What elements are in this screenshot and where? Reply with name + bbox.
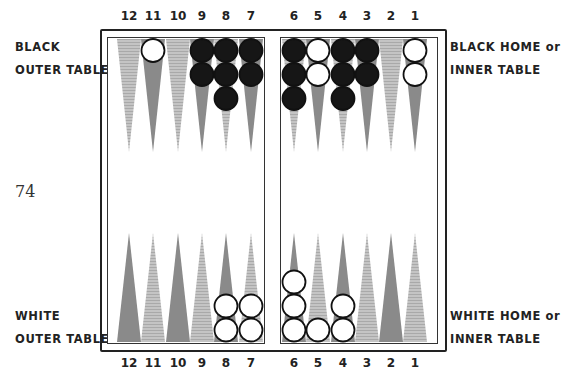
white-checker — [283, 271, 306, 294]
black-checker — [332, 63, 355, 86]
black-checker — [283, 63, 306, 86]
white-checker — [215, 319, 238, 342]
white-checker — [332, 319, 355, 342]
point-bottom-2 — [379, 233, 403, 342]
black-checker — [215, 87, 238, 110]
black-checker — [240, 39, 263, 62]
black-checker — [332, 39, 355, 62]
point-top-2 — [379, 39, 403, 152]
point-bottom-12 — [117, 233, 141, 342]
white-checker — [307, 63, 330, 86]
black-checker — [240, 63, 263, 86]
black-checker — [283, 39, 306, 62]
black-checker — [332, 87, 355, 110]
white-checker — [332, 295, 355, 318]
white-checker — [240, 295, 263, 318]
white-checker — [404, 63, 427, 86]
point-bottom-11 — [141, 233, 165, 342]
black-checker — [283, 87, 306, 110]
black-checker — [215, 63, 238, 86]
black-checker — [356, 63, 379, 86]
black-checker — [191, 63, 214, 86]
board-graphics — [0, 0, 561, 377]
point-top-10 — [166, 39, 190, 152]
black-checker — [356, 39, 379, 62]
point-bottom-3 — [355, 233, 379, 342]
white-checker — [307, 39, 330, 62]
white-checker — [283, 295, 306, 318]
point-bottom-1 — [403, 233, 427, 342]
white-checker — [142, 39, 165, 62]
point-bottom-10 — [166, 233, 190, 342]
point-top-12 — [117, 39, 141, 152]
white-checker — [307, 319, 330, 342]
white-checker — [404, 39, 427, 62]
white-checker — [240, 319, 263, 342]
white-checker — [283, 319, 306, 342]
point-bottom-9 — [190, 233, 214, 342]
black-checker — [191, 39, 214, 62]
white-checker — [215, 295, 238, 318]
black-checker — [215, 39, 238, 62]
